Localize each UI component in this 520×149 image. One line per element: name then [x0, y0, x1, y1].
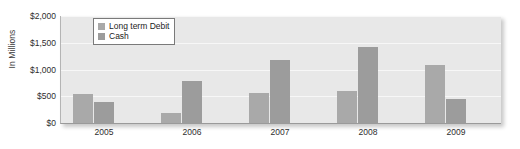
bar-group [325, 16, 413, 123]
legend-item: Long term Debit [98, 21, 169, 31]
bar [337, 91, 357, 123]
legend-item: Cash [98, 31, 169, 41]
bar [73, 94, 93, 123]
bar [249, 93, 269, 123]
x-axis-tick-label: 2005 [69, 127, 139, 137]
y-axis-tick-label: $0 [12, 119, 56, 128]
bar [358, 47, 378, 123]
bar-group [413, 16, 501, 123]
bar [446, 99, 466, 123]
x-axis-tick-label: 2008 [333, 127, 403, 137]
y-axis-tick-label: $1,500 [12, 39, 56, 48]
bar-group [237, 16, 325, 123]
y-axis-tick-label: $1,000 [12, 65, 56, 74]
y-axis-tick-label: $2,000 [12, 12, 56, 21]
y-axis: $0$500$1,000$1,500$2,000 [8, 0, 56, 149]
legend-swatch-icon [98, 33, 105, 40]
bar [270, 60, 290, 123]
y-axis-tick-label: $500 [12, 92, 56, 101]
bar [182, 81, 202, 123]
legend-item-label: Cash [109, 31, 129, 41]
bar [161, 113, 181, 123]
legend-swatch-icon [98, 23, 105, 30]
bar-chart: In Millions $0$500$1,000$1,500$2,000 200… [0, 0, 520, 149]
bar [94, 102, 114, 123]
x-axis-tick-label: 2009 [421, 127, 491, 137]
legend-item-label: Long term Debit [109, 21, 169, 31]
x-axis-tick-label: 2006 [157, 127, 227, 137]
chart-legend: Long term DebitCash [93, 18, 175, 45]
x-axis-tick-label: 2007 [245, 127, 315, 137]
bar [425, 65, 445, 123]
